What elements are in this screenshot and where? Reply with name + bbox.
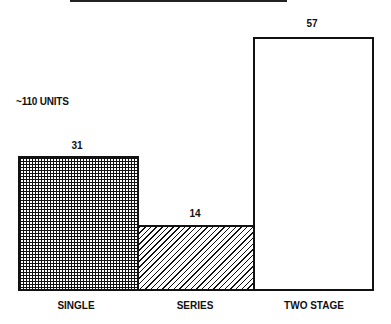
value-label-single: 31 xyxy=(47,140,107,151)
value-label-two-stage: 57 xyxy=(282,18,342,29)
category-label-series: SERIES xyxy=(135,300,255,311)
top-rule xyxy=(70,0,287,2)
category-label-two-stage: TWO STAGE xyxy=(254,300,374,311)
bar-single xyxy=(18,156,139,291)
units-annotation: ~110 UNITS xyxy=(16,96,69,107)
bar-series xyxy=(137,225,255,291)
bar-two-stage xyxy=(253,37,374,291)
value-label-series: 14 xyxy=(165,208,225,219)
category-label-single: SINGLE xyxy=(16,300,136,311)
